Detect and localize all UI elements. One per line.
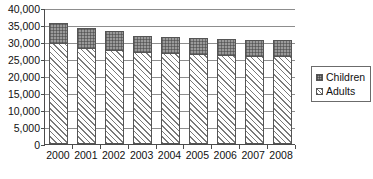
y-axis-tick-label: 15,000 <box>8 89 40 99</box>
chart-figure: 05,00010,00015,00020,00025,00030,00035,0… <box>0 0 373 179</box>
legend-label-adults: Adults <box>326 86 355 97</box>
y-axis-tick-mark <box>41 43 45 44</box>
legend-item-adults[interactable]: Adults <box>316 84 368 98</box>
bar-segment-adults[interactable] <box>161 53 180 144</box>
bar-segment-adults[interactable] <box>217 55 236 144</box>
y-axis-tick-label: 20,000 <box>8 72 40 82</box>
legend-label-children: Children <box>326 72 365 83</box>
y-axis-tick-mark <box>41 26 45 27</box>
x-axis-tick-label: 2008 <box>261 150 301 161</box>
y-axis-tick-mark <box>41 60 45 61</box>
y-axis-tick-label: 0 <box>34 140 40 150</box>
y-axis-tick-mark <box>41 111 45 112</box>
bar-segment-adults[interactable] <box>77 48 96 144</box>
bar-segment-children[interactable] <box>273 40 292 58</box>
y-axis-tick-mark <box>41 94 45 95</box>
legend-item-children[interactable]: Children <box>316 70 368 84</box>
x-axis-tick-mark <box>211 145 212 149</box>
bar-segment-children[interactable] <box>161 37 180 54</box>
y-axis-tick-mark <box>41 145 45 146</box>
bar-segment-adults[interactable] <box>105 50 124 144</box>
bar-column[interactable] <box>273 8 292 144</box>
bar-column[interactable] <box>189 8 208 144</box>
plot-area <box>44 9 295 145</box>
y-axis-tick-mark <box>41 9 45 10</box>
bar-segment-adults[interactable] <box>189 54 208 144</box>
x-axis-tick-mark <box>100 145 101 149</box>
bar-segment-adults[interactable] <box>133 52 152 144</box>
x-axis-tick-mark <box>295 145 296 149</box>
y-axis-tick-label: 35,000 <box>8 21 40 31</box>
chart-legend: Children Adults <box>311 66 371 102</box>
legend-swatch-children-icon <box>316 74 323 81</box>
bar-segment-children[interactable] <box>77 28 96 49</box>
bar-segment-children[interactable] <box>217 39 236 56</box>
x-axis-tick-mark <box>156 145 157 149</box>
bar-column[interactable] <box>49 8 68 144</box>
bar-column[interactable] <box>161 8 180 144</box>
bar-segment-children[interactable] <box>133 36 152 54</box>
bar-column[interactable] <box>133 8 152 144</box>
bar-segment-adults[interactable] <box>245 56 264 144</box>
y-axis-tick-mark <box>41 128 45 129</box>
legend-swatch-adults-icon <box>316 88 323 95</box>
x-axis-tick-mark <box>128 145 129 149</box>
bar-segment-children[interactable] <box>245 40 264 57</box>
bar-segment-adults[interactable] <box>273 56 292 144</box>
bar-column[interactable] <box>245 8 264 144</box>
x-axis-tick-mark <box>267 145 268 149</box>
y-axis-tick-label: 25,000 <box>8 55 40 65</box>
y-axis-tick-label: 30,000 <box>8 38 40 48</box>
y-axis-tick-label: 40,000 <box>8 4 40 14</box>
bar-segment-adults[interactable] <box>49 43 68 144</box>
bar-column[interactable] <box>105 8 124 144</box>
x-axis-tick-mark <box>72 145 73 149</box>
x-axis-tick-mark <box>183 145 184 149</box>
y-axis-tick-label: 5,000 <box>14 123 40 133</box>
bar-segment-children[interactable] <box>105 31 124 50</box>
x-axis-tick-mark <box>239 145 240 149</box>
y-axis-tick-label: 10,000 <box>8 106 40 116</box>
bar-segment-children[interactable] <box>189 38 208 55</box>
bar-segment-children[interactable] <box>49 23 68 44</box>
bar-column[interactable] <box>217 8 236 144</box>
bar-column[interactable] <box>77 8 96 144</box>
y-axis-tick-mark <box>41 77 45 78</box>
